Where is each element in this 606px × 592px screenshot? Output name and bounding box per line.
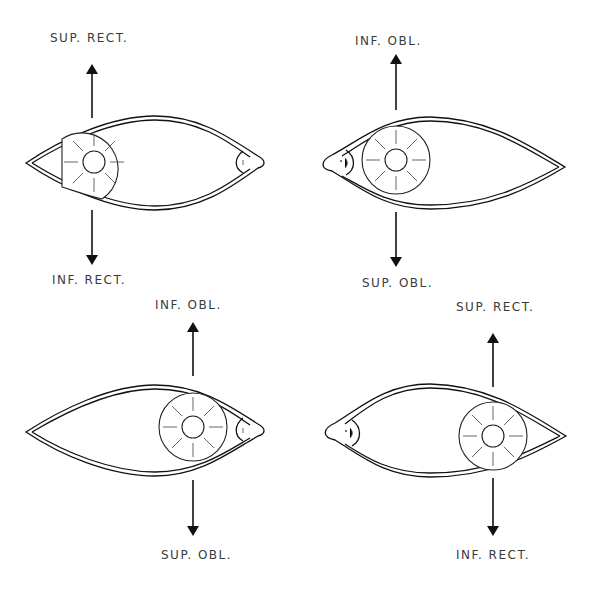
extraocular-muscle-diagram: SUP. RECT. INF. RECT. INF. OBL. xyxy=(0,0,606,592)
iris-icon xyxy=(362,126,430,194)
iris-icon xyxy=(459,402,527,470)
label-inf-rect: INF. RECT. xyxy=(52,273,126,287)
arrow-up-icon xyxy=(86,64,98,118)
arrow-down-icon xyxy=(86,210,98,265)
label-sup-rect: SUP. RECT. xyxy=(50,31,128,45)
caruncle-icon xyxy=(236,418,243,441)
label-inf-obl: INF. OBL. xyxy=(355,34,422,48)
iris-icon xyxy=(159,393,227,461)
panel-bottom-left: INF. OBL. SUP. OBL. xyxy=(26,298,264,562)
arrow-up-icon xyxy=(187,322,199,376)
eye-outline xyxy=(26,385,264,476)
panel-top-left: SUP. RECT. INF. RECT. xyxy=(26,31,264,287)
arrow-up-icon xyxy=(390,54,402,110)
arrow-down-icon xyxy=(390,212,402,267)
label-inf-rect: INF. RECT. xyxy=(456,548,530,562)
arrow-down-icon xyxy=(487,478,499,536)
iris-icon xyxy=(62,132,124,199)
panel-bottom-right: SUP. RECT. INF. RECT. xyxy=(325,300,566,562)
label-inf-obl: INF. OBL. xyxy=(155,298,222,312)
label-sup-obl: SUP. OBL. xyxy=(161,548,232,562)
caruncle-icon xyxy=(345,420,359,446)
panel-top-right: INF. OBL. SUP. OBL. xyxy=(323,34,565,290)
label-sup-obl: SUP. OBL. xyxy=(362,276,433,290)
eye-outline xyxy=(325,384,566,477)
label-sup-rect: SUP. RECT. xyxy=(456,300,534,314)
arrow-up-icon xyxy=(487,333,499,387)
arrow-down-icon xyxy=(187,480,199,536)
caruncle-icon xyxy=(236,151,243,173)
eye-outline xyxy=(323,117,565,209)
